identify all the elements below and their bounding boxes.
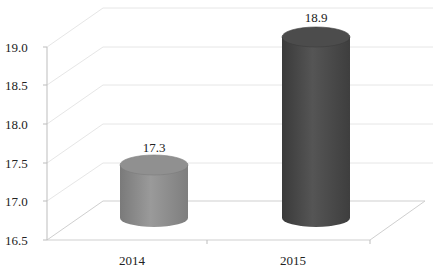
gridlines	[47, 8, 433, 201]
x-label-2014: 2014	[119, 253, 146, 268]
bar-2014: 17.3	[120, 140, 188, 227]
bar-2015: 18.9	[282, 10, 350, 227]
y-tick-18-5: 18.5	[5, 78, 28, 93]
data-label-2014: 17.3	[143, 140, 166, 155]
y-tick-18-0: 18.0	[5, 117, 28, 132]
chart-floor	[47, 201, 425, 240]
cylinder-bar-chart: 19.0 18.5 18.0 17.5 17.0 16.5 17.3 18.9 …	[0, 0, 433, 277]
x-label-2015: 2015	[280, 253, 306, 268]
y-tick-19-0: 19.0	[5, 40, 28, 55]
y-tick-16-5: 16.5	[5, 233, 28, 248]
data-label-2015: 18.9	[305, 10, 328, 25]
y-tick-labels: 19.0 18.5 18.0 17.5 17.0 16.5	[5, 40, 28, 248]
y-tick-17-5: 17.5	[5, 156, 28, 171]
x-tick-labels: 2014 2015	[119, 253, 306, 268]
y-tick-17-0: 17.0	[5, 194, 28, 209]
